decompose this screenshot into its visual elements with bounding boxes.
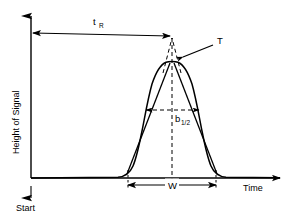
half-height-width-label: b <box>175 113 180 124</box>
tangent-label: T <box>217 35 223 46</box>
base-width-label: W <box>168 180 177 191</box>
retention-time-label: t <box>93 16 96 27</box>
signal-curve <box>31 61 280 178</box>
half-height-width-label-subscript: 1/2 <box>181 119 190 126</box>
x-axis-label: Time <box>243 183 263 193</box>
tangent-line-left <box>127 63 170 174</box>
chromatogram-svg: t R T b 1/2 W Time Start Height of Signa… <box>0 0 294 218</box>
y-axis-label: Height of Signal <box>11 90 21 154</box>
retention-time-label-subscript: R <box>99 22 104 29</box>
retention-time-dimension-line <box>33 33 170 36</box>
tangent-callout-leader <box>183 45 213 57</box>
origin-label: Start <box>16 203 36 213</box>
chromatogram-figure: t R T b 1/2 W Time Start Height of Signa… <box>0 0 294 218</box>
